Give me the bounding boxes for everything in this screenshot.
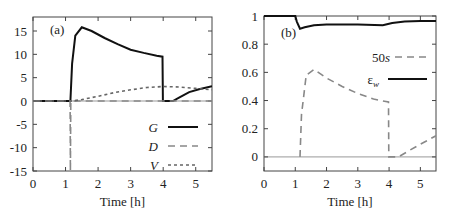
panel-a: 012345151050-5-10-15Time [h](a)GDV [10,17,212,209]
y-tick-label: 15 [14,24,27,39]
y-tick-label: 1 [252,9,259,24]
y-tick-label: 0.6 [242,65,259,80]
y-tick-label: -5 [16,117,27,132]
x-tick-label: 2 [323,176,330,191]
y-tick-label: 5 [21,70,28,85]
y-tick-label: 0 [21,94,28,109]
chart-figure: 012345151050-5-10-15Time [h](a)GDV012345… [0,0,451,220]
x-tick-label: 4 [386,176,393,191]
y-tick-label: 0.8 [242,37,258,52]
y-tick-label: -15 [10,164,27,179]
panel-label: (a) [50,22,64,37]
y-tick-label: -10 [10,140,27,155]
y-tick-label: 10 [14,47,27,62]
x-tick-label: 0 [261,176,268,191]
legend-label: εw [368,72,379,89]
x-tick-label: 0 [30,176,37,191]
x-tick-label: 4 [160,176,167,191]
x-tick-label: 3 [127,176,134,191]
x-tick-label: 2 [95,176,102,191]
series-d [33,101,212,171]
y-tick-label: 0.2 [242,121,258,136]
legend-label: 50s [372,50,390,65]
x-tick-label: 5 [192,176,199,191]
panel-b: 01234510.80.60.40.20Time [h](b)50sεw [242,9,436,210]
x-axis-label: Time [h] [100,194,145,209]
legend-label: G [149,120,159,135]
y-tick-label: 0.4 [242,93,259,108]
x-tick-label: 5 [417,176,424,191]
panel-label: (b) [281,25,296,40]
x-tick-label: 3 [355,176,362,191]
x-tick-label: 1 [292,176,299,191]
legend-label: D [148,139,159,154]
x-axis-label: Time [h] [327,194,372,209]
y-tick-label: 0 [252,149,259,164]
x-tick-label: 1 [62,176,69,191]
series-g [33,27,212,101]
